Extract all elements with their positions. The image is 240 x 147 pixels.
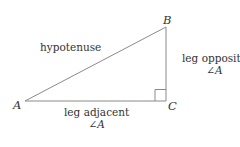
hypotenuse-label: hypotenuse: [40, 41, 101, 53]
leg-opposite-angle-text: ∠A: [182, 64, 240, 76]
vertex-label-c: C: [168, 100, 177, 114]
leg-adjacent-text: leg adjacent: [64, 106, 129, 118]
leg-adjacent-label: leg adjacent ∠A: [64, 106, 129, 131]
leg-opposite-label: leg opposite ∠A: [182, 52, 240, 77]
leg-opposite-text: leg opposite: [182, 52, 240, 64]
right-triangle-diagram: A B C hypotenuse leg opposite ∠A leg adj…: [0, 0, 240, 147]
vertex-label-b: B: [163, 14, 171, 28]
right-angle-marker-icon: [155, 90, 166, 102]
leg-adjacent-angle-text: ∠A: [64, 118, 129, 130]
hypotenuse-line: [25, 27, 166, 101]
vertex-label-a: A: [13, 99, 21, 113]
